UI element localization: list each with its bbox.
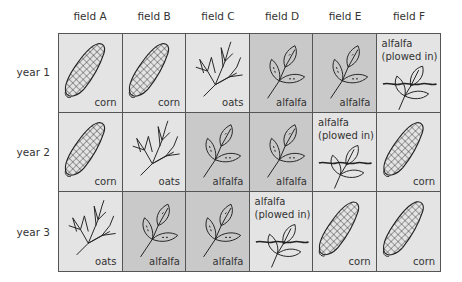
cell-year3-field-c: alfalfa: [186, 192, 250, 271]
alfalfa-plowed-icon: [377, 60, 441, 112]
cell-year1-field-a: corn: [59, 34, 123, 113]
crop-label: corn: [95, 176, 117, 187]
crop-label-line1: alfalfa: [255, 195, 311, 208]
column-header-field-e: field E: [313, 10, 377, 22]
column-header-field-d: field D: [250, 10, 314, 22]
crop-label: alfalfa: [149, 256, 180, 267]
row-header-year-2: year 2: [0, 146, 50, 158]
crop-label: corn: [349, 256, 371, 267]
crop-label: oats: [222, 97, 243, 108]
column-header-field-f: field F: [377, 10, 441, 22]
crop-rotation-grid: corn corn oats alfalfa alfalfa alfalfa (…: [58, 33, 441, 272]
row-header-year-3: year 3: [0, 226, 50, 238]
column-header-field-b: field B: [122, 10, 186, 22]
crop-label: alfalfa: [213, 176, 244, 187]
crop-label: corn: [158, 97, 180, 108]
crop-label: alfalfa: [276, 176, 307, 187]
cell-year1-field-e: alfalfa: [313, 34, 377, 113]
cell-year1-field-f: alfalfa (plowed in): [377, 34, 441, 113]
cell-year2-field-d: alfalfa: [250, 113, 314, 192]
cell-year1-field-b: corn: [123, 34, 187, 113]
cell-year2-field-c: alfalfa: [186, 113, 250, 192]
column-header-field-a: field A: [58, 10, 122, 22]
cell-year2-field-a: corn: [59, 113, 123, 192]
alfalfa-plowed-icon: [250, 218, 313, 270]
cell-year1-field-c: oats: [186, 34, 250, 113]
crop-label: corn: [95, 97, 117, 108]
column-header-field-c: field C: [186, 10, 250, 22]
cell-year3-field-d: alfalfa (plowed in): [250, 192, 314, 271]
cell-year1-field-d: alfalfa: [250, 34, 314, 113]
crop-label-line1: alfalfa: [382, 37, 438, 50]
cell-year3-field-e: corn: [313, 192, 377, 271]
cell-year3-field-a: oats: [59, 192, 123, 271]
cell-year2-field-e: alfalfa (plowed in): [313, 113, 377, 192]
cell-year2-field-b: oats: [123, 113, 187, 192]
crop-label: alfalfa: [213, 256, 244, 267]
crop-label: oats: [159, 176, 180, 187]
row-header-year-1: year 1: [0, 66, 50, 78]
crop-label: corn: [413, 256, 435, 267]
cell-year3-field-b: alfalfa: [123, 192, 187, 271]
crop-label: corn: [413, 176, 435, 187]
cell-year2-field-f: corn: [377, 113, 441, 192]
crop-label: oats: [95, 256, 116, 267]
crop-label: alfalfa: [276, 97, 307, 108]
crop-label-line1: alfalfa: [318, 116, 374, 129]
alfalfa-plowed-icon: [313, 139, 376, 191]
cell-year3-field-f: corn: [377, 192, 441, 271]
crop-label: alfalfa: [340, 97, 371, 108]
